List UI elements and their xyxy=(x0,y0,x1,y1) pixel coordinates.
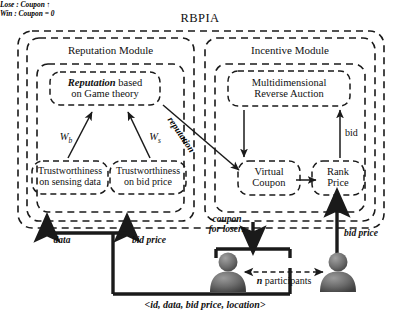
incentive-module-label: Incentive Module xyxy=(205,45,375,57)
trust-bid-line1: Trustworthiness xyxy=(116,165,180,176)
auction-line1: Multidimensional xyxy=(252,77,327,88)
rank-price-line2: Price xyxy=(327,177,349,188)
wb-symbol: W xyxy=(60,131,69,142)
ws-symbol: W xyxy=(149,131,158,142)
reputation-line2: on Game theory xyxy=(71,88,139,99)
bid-price-left-label: bid price xyxy=(118,235,180,245)
virtual-coupon-line2: Coupon xyxy=(252,177,285,188)
trust-bid-line2: on bid price xyxy=(124,176,172,187)
diagram-canvas: RBPIA Reputation Module Incentive Module… xyxy=(0,0,400,332)
participants-word: participants xyxy=(262,275,311,286)
reputation-module-label: Reputation Module xyxy=(27,45,194,57)
reputation-emphasis: Reputation xyxy=(68,77,116,88)
virtual-coupon-label: Virtual Coupon xyxy=(238,166,300,189)
tuple-label: <id, data, bid price, location> xyxy=(110,300,300,311)
data-flow-label: data xyxy=(40,235,84,245)
coupon-losers-line2: for losers xyxy=(196,224,258,234)
wb-subscript: b xyxy=(69,136,73,145)
coupon-for-losers-label: coupon for losers xyxy=(196,214,258,235)
trust-sensing-line1: Trustworthiness xyxy=(38,165,102,176)
auction-line2: Reverse Auction xyxy=(254,88,324,99)
ws-subscript: s xyxy=(158,136,161,145)
participant-person-icon-right xyxy=(320,253,356,293)
ws-label: Ws xyxy=(144,131,166,145)
bid-label: bid xyxy=(345,128,371,139)
rbpia-outer-container xyxy=(18,31,384,228)
bid-price-right-label: bid price xyxy=(344,228,400,238)
reverse-auction-label: Multidimensional Reverse Auction xyxy=(228,77,350,100)
trustworthiness-sensing-label: Trustworthiness on sensing data xyxy=(30,166,110,188)
wb-label: Wb xyxy=(55,131,77,145)
reputation-game-theory-label: Reputation based on Game theory xyxy=(50,77,160,100)
coupon-losers-line1: coupon xyxy=(196,214,258,224)
n-participants-label: n participants xyxy=(245,276,323,287)
reputation-rest: based xyxy=(116,77,143,88)
virtual-coupon-line1: Virtual xyxy=(254,166,283,177)
trustworthiness-bid-label: Trustworthiness on bid price xyxy=(108,166,188,188)
page-title: RBPIA xyxy=(0,12,400,26)
trust-sensing-line2: on sensing data xyxy=(39,176,101,187)
participant-person-icon-left xyxy=(210,253,246,293)
rank-price-line1: Rank xyxy=(327,166,349,177)
rank-price-label: Rank Price xyxy=(312,166,364,189)
